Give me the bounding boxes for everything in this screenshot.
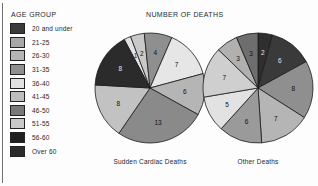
legend-item: Over 60 xyxy=(8,144,90,158)
legend-item: 26-30 xyxy=(8,49,90,63)
legend-title: AGE GROUP xyxy=(11,11,90,18)
legend-item: 36-40 xyxy=(8,76,90,90)
legend-item-label: 41-45 xyxy=(32,93,50,100)
pie-slice-label: 13 xyxy=(154,119,162,126)
pie-slice-label: 7 xyxy=(223,74,227,81)
legend-item: 31-35 xyxy=(8,63,90,77)
pie-slice-label: 7 xyxy=(175,61,179,68)
legend-item-label: 36-40 xyxy=(32,80,50,87)
legend-item: 20 and under xyxy=(8,22,90,36)
pie-chart-sudden-cardiac-deaths: 124761388 Sudden Cardiac Deaths xyxy=(92,30,208,152)
legend-item-label: Over 60 xyxy=(32,148,57,155)
legend-item: 51-55 xyxy=(8,117,90,131)
legend-swatch xyxy=(10,146,25,157)
pie-slice-label: 4 xyxy=(153,49,157,56)
legend-swatch xyxy=(10,37,25,48)
legend-items: 20 and under21-2526-3031-3536-4041-4546-… xyxy=(8,22,90,158)
legend-item-label: 26-30 xyxy=(32,52,50,59)
pie-svg-right: 268765733 xyxy=(200,30,316,152)
chart-title: NUMBER OF DEATHS xyxy=(146,11,223,18)
legend-item-label: 51-55 xyxy=(32,120,50,127)
legend-swatch xyxy=(10,64,25,75)
legend-item: 21-25 xyxy=(8,36,90,50)
legend-item-label: 21-25 xyxy=(32,39,50,46)
legend-swatch xyxy=(10,78,25,89)
legend-swatch xyxy=(10,118,25,129)
pie-slice-label: 6 xyxy=(183,88,187,95)
legend-swatch xyxy=(10,91,25,102)
legend-swatch xyxy=(10,23,25,34)
legend-item: 46-50 xyxy=(8,104,90,118)
pie-slice-label: 7 xyxy=(274,115,278,122)
pie-caption-right: Other Deaths xyxy=(200,158,316,165)
pie-slice-label: 2 xyxy=(140,50,144,57)
chart-page: AGE GROUP 20 and under21-2526-3031-3536-… xyxy=(0,0,318,186)
frame-left-border xyxy=(2,3,3,183)
pie-slice-label: 3 xyxy=(249,50,253,57)
legend-swatch xyxy=(10,105,25,116)
legend-item-label: 56-60 xyxy=(32,134,50,141)
legend: AGE GROUP 20 and under21-2526-3031-3536-… xyxy=(8,11,90,158)
pie-slice-label: 2 xyxy=(261,49,265,56)
legend-swatch xyxy=(10,50,25,61)
legend-swatch xyxy=(10,132,25,143)
pie-slice-label: 8 xyxy=(118,65,122,72)
pie-svg-left: 124761388 xyxy=(92,30,208,152)
pie-caption-left: Sudden Cardiac Deaths xyxy=(92,158,208,165)
pie-slice-label: 6 xyxy=(245,118,249,125)
pie-slice-label: 8 xyxy=(117,100,121,107)
pie-slice-label: 3 xyxy=(236,55,240,62)
legend-item: 56-60 xyxy=(8,131,90,145)
legend-item-label: 31-35 xyxy=(32,66,50,73)
legend-item-label: 20 and under xyxy=(32,25,73,32)
legend-item-label: 46-50 xyxy=(32,107,50,114)
pie-chart-other-deaths: 268765733 Other Deaths xyxy=(200,30,316,152)
legend-item: 41-45 xyxy=(8,90,90,104)
pie-slice-label: 5 xyxy=(225,101,229,108)
pie-slice-label: 6 xyxy=(278,57,282,64)
pie-slice-label: 8 xyxy=(291,85,295,92)
